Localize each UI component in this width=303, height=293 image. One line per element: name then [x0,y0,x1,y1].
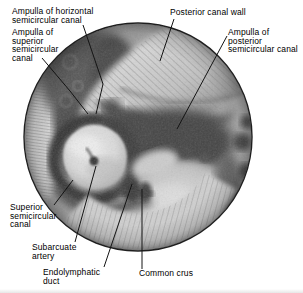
label-ampulla-superior-canal: Ampulla of superior semicircular canal [12,28,59,62]
figure-canvas: Ampulla of horizontal semicircular canal… [0,0,303,293]
label-common-crus: Common crus [139,269,193,278]
label-endolymphatic-duct: Endolymphatic duct [43,268,100,285]
label-superior-semicircular-canal: Superior semicircular canal [10,203,57,229]
page-edge-artifact [0,289,303,293]
label-ampulla-posterior-canal: Ampulla of posterior semicircular canal [228,28,298,54]
label-ampulla-horizontal-canal: Ampulla of horizontal semicircular canal [12,7,93,24]
label-posterior-canal-wall: Posterior canal wall [170,8,246,17]
label-subarcuate-artery: Subarcuate artery [32,243,76,260]
